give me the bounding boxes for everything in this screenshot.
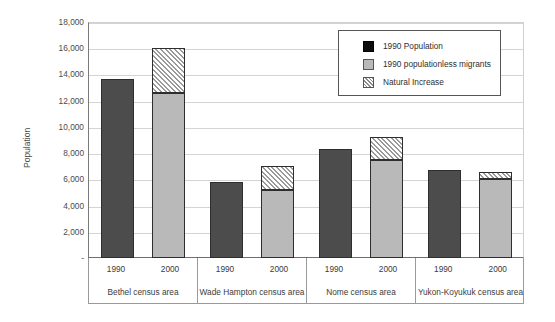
bar-segment-1990-population <box>428 170 461 259</box>
legend-swatch-hatched-icon <box>363 77 374 88</box>
y-axis-tick-labels: 18,00016,00014,00012,00010,0008,0006,000… <box>24 22 84 258</box>
y-axis-tick-label: 18,000 <box>28 18 84 26</box>
category-year-label: 2000 <box>361 264 415 274</box>
bar-2000 <box>370 137 403 258</box>
category-year-label: 1990 <box>307 264 361 274</box>
category-group: 19902000Nome census area <box>307 258 416 304</box>
y-axis-tick-label: 10,000 <box>28 123 84 131</box>
legend-label: Natural Increase <box>383 77 444 87</box>
category-year-labels: 19902000 <box>307 258 415 280</box>
bar-segment-1990-population <box>210 182 243 258</box>
y-axis-tick-label: 2,000 <box>28 228 84 236</box>
category-year-label: 2000 <box>471 264 526 274</box>
category-year-labels: 19902000 <box>89 258 197 280</box>
category-year-label: 1990 <box>416 264 471 274</box>
bar-segment-migrants <box>479 179 512 258</box>
bar-segment-migrants <box>152 93 185 258</box>
y-axis-tick-label: 8,000 <box>28 149 84 157</box>
category-name-label: Yukon-Koyukuk census area <box>416 280 525 304</box>
bar-segment-natural-increase <box>152 48 185 94</box>
legend-item-migrants: 1990 populationless migrants <box>363 55 500 73</box>
bar-1990 <box>428 170 461 259</box>
population-bar-chart: Population 18,00016,00014,00012,00010,00… <box>0 0 555 322</box>
category-name-label: Bethel census area <box>89 280 197 304</box>
chart-legend: 1990 Population 1990 populationless migr… <box>338 30 501 96</box>
legend-swatch-dark-icon <box>363 41 374 52</box>
bar-1990 <box>101 79 134 258</box>
category-year-label: 2000 <box>143 264 197 274</box>
bar-2000 <box>152 48 185 258</box>
category-year-labels: 19902000 <box>416 258 525 280</box>
y-axis-tick-label: - <box>28 254 84 262</box>
y-axis-tick-label: 16,000 <box>28 44 84 52</box>
bar-segment-migrants <box>370 160 403 258</box>
category-name-label: Wade Hampton census area <box>198 280 306 304</box>
y-axis-tick-label: 14,000 <box>28 70 84 78</box>
legend-label: 1990 Population <box>383 41 443 51</box>
bar-2000 <box>479 172 512 258</box>
y-axis-tick-label: 4,000 <box>28 202 84 210</box>
bar-segment-1990-population <box>319 149 352 258</box>
legend-label: 1990 populationless migrants <box>383 59 491 69</box>
category-year-labels: 19902000 <box>198 258 306 280</box>
category-year-label: 1990 <box>89 264 143 274</box>
bar-segment-1990-population <box>101 79 134 258</box>
category-year-label: 2000 <box>252 264 306 274</box>
bar-1990 <box>210 182 243 258</box>
legend-item-natural-increase: Natural Increase <box>363 73 500 91</box>
bar-segment-natural-increase <box>261 166 294 190</box>
category-axis: 19902000Bethel census area19902000Wade H… <box>88 258 524 304</box>
bar-segment-natural-increase <box>479 172 512 179</box>
category-group: 19902000Wade Hampton census area <box>198 258 307 304</box>
bar-segment-natural-increase <box>370 137 403 159</box>
category-name-label: Nome census area <box>307 280 415 304</box>
category-group: 19902000Bethel census area <box>89 258 198 304</box>
legend-item-1990-population: 1990 Population <box>363 37 500 55</box>
y-axis-tick-label: 12,000 <box>28 97 84 105</box>
category-year-label: 1990 <box>198 264 252 274</box>
y-axis-tick-label: 6,000 <box>28 175 84 183</box>
bar-segment-migrants <box>261 190 294 258</box>
bar-2000 <box>261 166 294 258</box>
category-group: 19902000Yukon-Koyukuk census area <box>416 258 525 304</box>
bar-1990 <box>319 149 352 258</box>
legend-swatch-gray-icon <box>363 59 374 70</box>
